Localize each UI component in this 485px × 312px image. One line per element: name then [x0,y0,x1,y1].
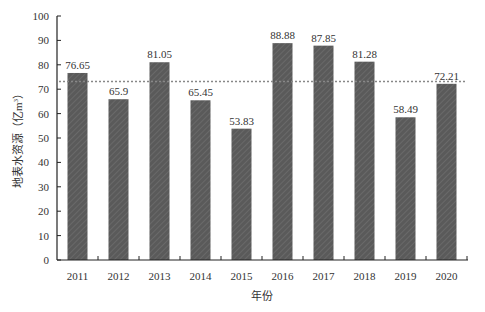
x-tick-label: 2017 [313,270,336,282]
value-label: 58.49 [393,103,418,115]
x-tick-label: 2014 [190,270,213,282]
value-label: 76.65 [65,59,90,71]
y-tick-label: 80 [38,59,50,71]
bar-2014 [191,100,211,260]
y-tick-label: 60 [38,108,50,120]
bar-2011 [68,73,88,260]
x-axis-title: 年份 [251,289,273,302]
y-tick-label: 50 [38,132,50,144]
value-label: 87.85 [311,32,336,44]
x-tick-label: 2016 [272,270,295,282]
value-label: 65.9 [109,85,129,97]
x-tick-label: 2013 [149,270,172,282]
bar-2013 [150,62,170,260]
x-tick-label: 2018 [354,270,377,282]
y-tick-label: 100 [33,10,50,22]
x-tick-label: 2012 [108,270,130,282]
x-tick-label: 2011 [67,270,89,282]
y-tick-label: 20 [38,205,50,217]
x-tick-label: 2019 [395,270,418,282]
y-tick-label: 10 [38,230,50,242]
bar-chart: 2011201220132014201520162017201820192020… [0,0,485,312]
bar-2017 [314,46,334,260]
chart-canvas: 2011201220132014201520162017201820192020… [0,0,485,312]
bar-2012 [109,99,129,260]
y-tick-label: 0 [44,254,50,266]
bar-2016 [273,43,293,260]
bar-2015 [232,129,252,260]
value-label: 65.45 [188,86,213,98]
y-tick-label: 40 [38,156,50,168]
y-tick-label: 70 [38,83,50,95]
x-tick-label: 2020 [436,270,459,282]
value-label: 81.05 [147,48,172,60]
value-label: 88.88 [270,29,295,41]
x-tick-label: 2015 [231,270,254,282]
bar-2018 [355,62,375,260]
bars-group [68,43,457,260]
value-label: 81.28 [352,48,377,60]
value-label: 53.83 [229,115,254,127]
y-axis-title: 地表水资源（亿m3） [11,88,24,188]
y-tick-label: 30 [38,181,50,193]
bar-2020 [437,84,457,260]
bar-2019 [396,117,416,260]
value-label: 72.21 [434,70,459,82]
y-tick-label: 90 [38,34,50,46]
